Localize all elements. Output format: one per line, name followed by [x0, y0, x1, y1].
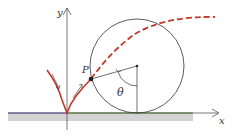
angle-arc: [118, 72, 137, 86]
angle-label: θ: [117, 86, 124, 99]
motion-arrow-left: [52, 74, 59, 88]
ground-strip: [8, 113, 193, 121]
x-axis-label: x: [219, 115, 225, 126]
cycloid-diagram: x y θ P: [0, 0, 237, 137]
cycloid-dashed: [91, 17, 215, 79]
point-p: [89, 77, 94, 82]
radius-to-point: [91, 66, 137, 79]
point-p-label: P: [81, 64, 89, 75]
cycloid-solid: [47, 70, 91, 113]
diagram-canvas: x y θ P: [0, 0, 237, 137]
y-axis-label: y: [56, 7, 63, 18]
